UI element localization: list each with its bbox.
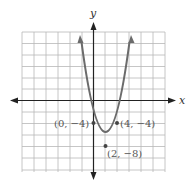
vertex-label: (2, −8)	[107, 148, 142, 159]
x-axis-label: x	[179, 94, 186, 107]
parabola-graph: x y (0, −4) (4, −4) (2, −8)	[0, 0, 193, 184]
point-4-neg4	[115, 121, 119, 125]
arrow-down-icon	[91, 172, 97, 180]
arrow-up-icon	[91, 22, 97, 30]
point-0-neg4	[92, 121, 96, 125]
point-label-4-neg4: (4, −4)	[120, 118, 155, 129]
y-axis-label: y	[89, 7, 97, 20]
curve-arrow-left-icon	[78, 35, 84, 43]
arrow-left-icon	[10, 98, 18, 104]
point-label-0-neg4: (0, −4)	[54, 118, 89, 129]
arrow-right-icon	[168, 98, 176, 104]
